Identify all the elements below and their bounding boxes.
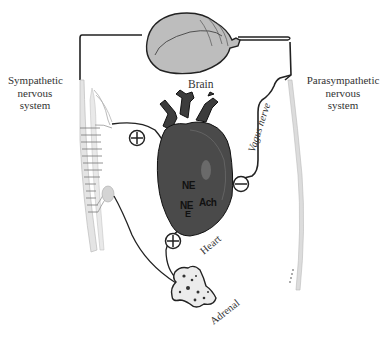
sympathetic-label-line1: Sympathetic [8, 74, 62, 87]
brain-illustration [147, 13, 240, 74]
parasympathetic-column [288, 80, 304, 290]
sympathetic-brain-nerve [80, 35, 142, 80]
parasympathetic-label-line1: Parasympathetic [306, 74, 380, 87]
adrenal-gland [172, 266, 217, 307]
sympathetic-label-line3: system [8, 99, 62, 112]
inhibitory-sign-vagus [234, 177, 249, 192]
excitatory-sign-adrenal [166, 234, 181, 249]
e-label: E [185, 209, 191, 219]
ach-label: Ach [199, 197, 216, 208]
parasympathetic-brain-nerve [238, 37, 290, 40]
brain-label: Brain [188, 78, 214, 91]
excitatory-sign-sympathetic [130, 131, 145, 146]
parasympathetic-label-line3: system [306, 99, 380, 112]
ganglion [102, 186, 114, 202]
parasympathetic-dots [289, 269, 294, 283]
heart-illustration [157, 122, 232, 236]
autonomic-heart-diagram [0, 0, 390, 338]
parasympathetic-label-line2: nervous [306, 87, 380, 100]
sympathetic-label: Sympathetic nervous system [8, 74, 62, 112]
brain-to-vagus-nerve [285, 42, 291, 80]
ne-label-1: NE [182, 180, 195, 191]
sympathetic-chain [80, 80, 112, 252]
parasympathetic-label: Parasympathetic nervous system [306, 74, 380, 112]
sympathetic-label-line2: nervous [8, 87, 62, 100]
